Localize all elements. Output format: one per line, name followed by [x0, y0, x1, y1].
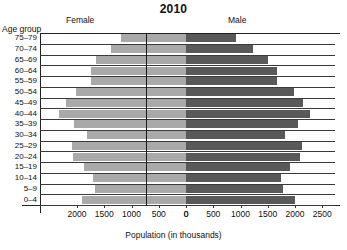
- x-axis-tick-label: 1500: [258, 209, 277, 219]
- pyramid-row: 15–19: [40, 162, 335, 173]
- age-group-label: 0–4: [0, 195, 37, 204]
- zero-axis-line: [146, 33, 147, 206]
- x-axis-tick: [268, 205, 269, 208]
- bar-female: [87, 131, 186, 139]
- bar-female: [74, 120, 186, 128]
- bar-female: [91, 77, 186, 85]
- bar-female: [93, 174, 186, 182]
- pyramid-row: 55–59: [40, 76, 335, 87]
- chart-title: 2010: [0, 2, 347, 16]
- age-group-label: 40–44: [0, 109, 37, 118]
- x-axis-tick: [213, 205, 214, 208]
- age-group-label: 20–24: [0, 152, 37, 161]
- bar-male: [186, 185, 283, 193]
- y-axis-title: Age group: [2, 24, 41, 34]
- age-group-label: 75–79: [0, 34, 37, 43]
- x-axis-tick: [295, 205, 296, 208]
- x-axis-tick-label: 1500: [95, 209, 114, 219]
- x-axis-tick-label: 500: [206, 209, 220, 219]
- bar-male: [186, 163, 290, 171]
- age-group-label: 15–19: [0, 163, 37, 172]
- x-axis-title: Population (in thousands): [0, 230, 347, 240]
- bar-male: [186, 131, 285, 139]
- bar-male: [186, 45, 253, 53]
- age-group-label: 10–14: [0, 173, 37, 182]
- bar-male: [186, 77, 277, 85]
- age-group-label: 35–39: [0, 120, 37, 129]
- bar-female: [72, 142, 186, 150]
- age-group-label: 60–64: [0, 66, 37, 75]
- pyramid-row: 0–4: [40, 194, 335, 205]
- bar-female: [73, 153, 186, 161]
- population-pyramid-chart: 2010 Female Male Age group 75–7970–7465–…: [0, 0, 347, 250]
- bar-male: [186, 142, 302, 150]
- age-group-label: 5–9: [0, 184, 37, 193]
- pyramid-row: 65–69: [40, 55, 335, 66]
- pyramid-row: 75–79: [40, 33, 335, 44]
- bar-male: [186, 88, 294, 96]
- pyramid-row: 40–44: [40, 108, 335, 119]
- legend-label-male: Male: [228, 15, 246, 25]
- age-group-label: 55–59: [0, 77, 37, 86]
- x-axis-tick-label: 2000: [68, 209, 87, 219]
- bar-female: [121, 34, 186, 42]
- pyramid-row: 45–49: [40, 98, 335, 109]
- x-axis-tick-label: 2500: [313, 209, 332, 219]
- pyramid-row: 5–9: [40, 184, 335, 195]
- bar-female: [95, 185, 186, 193]
- age-group-label: 70–74: [0, 44, 37, 53]
- pyramid-row: 70–74: [40, 44, 335, 55]
- pyramid-row: 35–39: [40, 119, 335, 130]
- row-separator: [40, 205, 335, 206]
- bar-male: [186, 153, 300, 161]
- x-axis-tick-label: 1000: [122, 209, 141, 219]
- legend-label-female: Female: [66, 15, 94, 25]
- age-group-label: 25–29: [0, 141, 37, 150]
- bar-female: [91, 67, 186, 75]
- x-axis-tick: [132, 205, 133, 208]
- x-axis-tick: [77, 205, 78, 208]
- bar-female: [84, 163, 186, 171]
- bar-female: [59, 110, 186, 118]
- x-axis-tick: [104, 205, 105, 208]
- pyramid-row: 10–14: [40, 173, 335, 184]
- bar-male: [186, 34, 236, 42]
- pyramid-row: 60–64: [40, 65, 335, 76]
- x-axis-tick: [186, 205, 187, 208]
- age-group-label: 45–49: [0, 98, 37, 107]
- bar-male: [186, 120, 298, 128]
- bar-male: [186, 56, 268, 64]
- bar-male: [186, 110, 310, 118]
- x-axis-tick-label: 1000: [231, 209, 250, 219]
- pyramid-row: 50–54: [40, 87, 335, 98]
- x-axis-tick-label: 0: [184, 209, 189, 219]
- bar-male: [186, 196, 295, 204]
- x-axis-tick: [241, 205, 242, 208]
- pyramid-row: 30–34: [40, 130, 335, 141]
- bar-female: [111, 45, 186, 53]
- x-axis-tick: [322, 205, 323, 208]
- plot-area: 75–7970–7465–6960–6455–5950–5445–4940–44…: [40, 33, 335, 205]
- x-axis-tick-label: 2000: [286, 209, 305, 219]
- bar-male: [186, 99, 303, 107]
- bar-female: [76, 88, 186, 96]
- x-axis-tick: [159, 205, 160, 208]
- age-group-label: 30–34: [0, 130, 37, 139]
- bar-male: [186, 174, 281, 182]
- age-group-label: 50–54: [0, 87, 37, 96]
- bar-female: [66, 99, 186, 107]
- bar-female: [96, 56, 186, 64]
- x-axis-tick-label: 500: [152, 209, 166, 219]
- bar-female: [82, 196, 186, 204]
- age-group-label: 65–69: [0, 55, 37, 64]
- pyramid-row: 25–29: [40, 141, 335, 152]
- pyramid-row: 20–24: [40, 151, 335, 162]
- bar-male: [186, 67, 277, 75]
